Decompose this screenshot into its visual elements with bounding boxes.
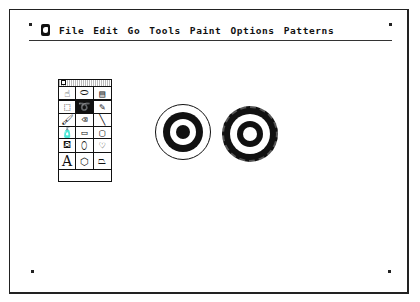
menu-tools[interactable]: Tools xyxy=(149,25,181,36)
menu-bar: File Edit Go Tools Paint Options Pattern… xyxy=(29,22,392,41)
tool-palette: ☝ ⬭ ▤ ⬚ ➰ ✎ 🖌 ⌫ ╲ 🧴 ▭ ▢ ⛾ ⬯ ♡ A ⬡ ⏢ xyxy=(58,79,112,182)
rough-target[interactable] xyxy=(222,106,278,162)
button-tool-icon[interactable]: ⬭ xyxy=(76,87,93,101)
menu-options[interactable]: Options xyxy=(230,25,274,36)
menu-patterns[interactable]: Patterns xyxy=(284,25,335,36)
spray-can-icon[interactable]: 🧴 xyxy=(59,127,76,140)
smooth-target[interactable] xyxy=(155,104,211,160)
tool-grid: ☝ ⬭ ▤ ⬚ ➰ ✎ 🖌 ⌫ ╲ 🧴 ▭ ▢ ⛾ ⬯ ♡ A ⬡ ⏢ xyxy=(59,87,111,183)
bucket-icon[interactable]: ⛾ xyxy=(59,139,76,153)
corner-mark-br xyxy=(388,270,391,273)
curve-icon[interactable]: ♡ xyxy=(94,139,111,153)
round-rect-icon[interactable]: ▢ xyxy=(94,127,111,140)
menu-edit[interactable]: Edit xyxy=(93,25,118,36)
rough-center xyxy=(243,127,257,141)
menu-items: File Edit Go Tools Paint Options Pattern… xyxy=(59,25,334,36)
select-icon[interactable]: ⬚ xyxy=(59,101,76,114)
pencil-icon[interactable]: ✎ xyxy=(94,101,111,114)
palette-close-box[interactable] xyxy=(61,80,66,85)
brush-icon[interactable]: 🖌 xyxy=(59,114,76,127)
palette-title-bar[interactable] xyxy=(59,80,111,87)
corner-mark-bl xyxy=(31,270,34,273)
oval-icon[interactable]: ⬯ xyxy=(76,139,93,153)
line-icon[interactable]: ╲ xyxy=(94,114,111,127)
apple-icon[interactable] xyxy=(41,24,50,36)
text-icon[interactable]: A xyxy=(59,153,76,170)
menu-paint[interactable]: Paint xyxy=(190,25,222,36)
lasso-icon[interactable]: ➰ xyxy=(76,101,93,114)
target-center xyxy=(176,125,190,139)
eraser-icon[interactable]: ⌫ xyxy=(76,114,93,127)
menu-go[interactable]: Go xyxy=(128,25,141,36)
menu-file[interactable]: File xyxy=(59,25,84,36)
regular-polygon-icon[interactable]: ⬡ xyxy=(76,153,93,170)
field-tool-icon[interactable]: ▤ xyxy=(94,87,111,101)
rectangle-icon[interactable]: ▭ xyxy=(76,127,93,140)
browse-hand-icon[interactable]: ☝ xyxy=(59,87,76,101)
polygon-icon[interactable]: ⏢ xyxy=(94,153,111,170)
